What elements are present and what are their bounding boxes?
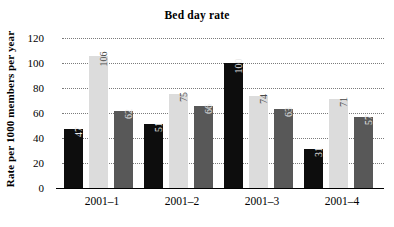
x-axis-line — [56, 188, 384, 189]
bar-2001-2-series-3[interactable]: 66 — [194, 106, 213, 189]
y-tick-label-120: 120 — [0, 33, 44, 44]
y-tick-label-60: 60 — [0, 108, 44, 119]
plot-area: 120 100 80 60 40 20 0 47 106 62 — [62, 38, 384, 188]
bar-2001-4-series-2[interactable]: 71 — [329, 99, 348, 188]
bar-value-label: 63 — [284, 107, 294, 117]
bar-2001-3-series-2[interactable]: 74 — [249, 96, 268, 189]
x-axis-label-2001-1: 2001–1 — [62, 194, 142, 208]
bar-value-label: 47 — [74, 127, 84, 137]
bar-value-label: 62 — [124, 109, 134, 119]
bar-value-label: 106 — [99, 51, 109, 66]
bar-value-label: 74 — [259, 94, 269, 104]
y-tick-label-0: 0 — [0, 183, 44, 194]
bar-2001-3-series-1[interactable]: 100 — [224, 63, 243, 188]
bar-value-label: 51 — [154, 122, 164, 132]
bed-day-rate-chart: Bed day rate Rate per 1000 members per y… — [0, 0, 394, 227]
x-axis-label-2001-3: 2001–3 — [222, 194, 302, 208]
bar-group-2001-2: 51 75 66 — [144, 38, 219, 188]
bar-value-label: 66 — [204, 104, 214, 114]
bar-2001-3-series-3[interactable]: 63 — [274, 109, 293, 188]
bar-value-label: 100 — [234, 59, 244, 74]
bar-group-2001-1: 47 106 62 — [64, 38, 139, 188]
bar-2001-4-series-1[interactable]: 31 — [304, 149, 323, 188]
bar-value-label: 31 — [314, 147, 324, 157]
x-axis-label-2001-4: 2001–4 — [302, 194, 382, 208]
y-tick-label-80: 80 — [0, 83, 44, 94]
bar-2001-2-series-2[interactable]: 75 — [169, 94, 188, 188]
bar-group-2001-4: 31 71 57 — [304, 38, 379, 188]
x-axis-label-2001-2: 2001–2 — [142, 194, 222, 208]
y-tick-label-40: 40 — [0, 133, 44, 144]
bar-series-container: 47 106 62 51 75 66 — [62, 38, 384, 188]
bar-value-label: 57 — [364, 115, 374, 125]
chart-title: Bed day rate — [0, 9, 394, 21]
bar-value-label: 75 — [179, 92, 189, 102]
bar-group-2001-3: 100 74 63 — [224, 38, 299, 188]
bar-2001-4-series-3[interactable]: 57 — [354, 117, 373, 188]
bar-2001-1-series-1[interactable]: 47 — [64, 129, 83, 188]
bar-value-label: 71 — [339, 97, 349, 107]
y-tick-label-100: 100 — [0, 58, 44, 69]
y-tick-label-20: 20 — [0, 158, 44, 169]
bar-2001-1-series-2[interactable]: 106 — [89, 56, 108, 189]
bar-2001-1-series-3[interactable]: 62 — [114, 111, 133, 189]
x-axis-labels: 2001–1 2001–2 2001–3 2001–4 — [62, 194, 384, 212]
bar-2001-2-series-1[interactable]: 51 — [144, 124, 163, 188]
